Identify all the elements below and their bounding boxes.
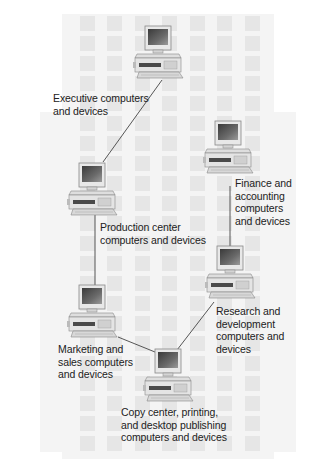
desktop-computer-icon	[67, 161, 119, 223]
node-production[interactable]	[67, 161, 119, 223]
label-research: Research and development computers and d…	[216, 305, 284, 355]
label-production: Production center computers and devices	[100, 221, 206, 246]
node-research[interactable]	[205, 244, 257, 306]
node-executive[interactable]	[133, 24, 185, 86]
link-copy-research	[177, 302, 214, 350]
label-executive: Executive computers and devices	[53, 92, 149, 117]
label-finance: Finance and accounting computers and dev…	[235, 177, 292, 227]
label-marketing: Marketing and sales computers and device…	[58, 343, 133, 381]
node-finance[interactable]	[203, 119, 255, 181]
desktop-computer-icon	[67, 283, 119, 345]
network-diagram: Executive computers and devices Producti…	[0, 0, 315, 472]
label-copy: Copy center, printing, and desktop publi…	[121, 406, 227, 444]
desktop-computer-icon	[133, 24, 185, 86]
node-marketing[interactable]	[67, 283, 119, 345]
desktop-computer-icon	[205, 244, 257, 306]
node-copy[interactable]	[143, 347, 195, 409]
desktop-computer-icon	[203, 119, 255, 181]
desktop-computer-icon	[143, 347, 195, 409]
